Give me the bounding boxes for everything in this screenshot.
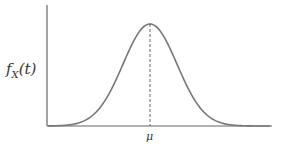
y-axis-label: fX(t)	[5, 60, 37, 80]
mean-tick-label: μ	[146, 130, 153, 143]
normal-distribution-figure: fX(t) μ	[0, 0, 283, 147]
density-curve	[48, 24, 270, 126]
